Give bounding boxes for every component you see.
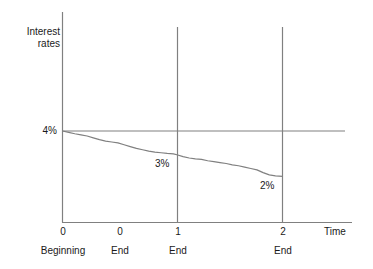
x-tick-sublabel-end-2: End	[238, 245, 328, 256]
y-axis-label: Interest rates	[8, 26, 60, 50]
annotation-2-percent: 2%	[260, 180, 274, 192]
x-tick-sublabel-end-1: End	[133, 245, 223, 256]
annotation-3-percent: 3%	[155, 158, 169, 170]
x-tick-0: 0	[43, 226, 83, 237]
x-tick-1: 0	[100, 226, 140, 237]
interest-rate-curve	[63, 131, 283, 176]
y-axis-tick-4-percent: 4%	[31, 125, 57, 137]
chart-figure: Interest rates 4% 3% 2% Time 0 Beginning…	[0, 0, 373, 269]
x-tick-2: 1	[158, 226, 198, 237]
x-tick-3: 2	[263, 226, 303, 237]
x-axis-label: Time	[324, 226, 346, 238]
